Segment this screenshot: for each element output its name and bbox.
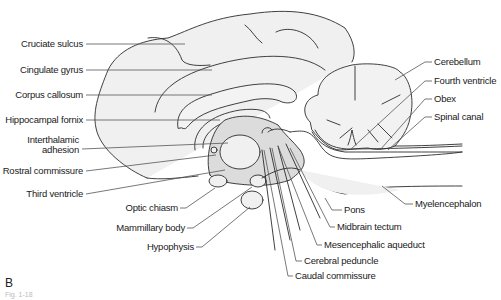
label-interthalamic-adhesion-line2: adhesion [42, 144, 79, 155]
label-midbrain-tectum: Midbrain tectum [337, 221, 402, 232]
label-myelencephalon: Myelencephalon [415, 198, 481, 209]
optic-chiasm-shape [209, 175, 227, 187]
label-cingulate-gyrus: Cingulate gyrus [20, 64, 83, 75]
label-mesencephalic-aqueduct: Mesencephalic aqueduct [324, 239, 425, 250]
cerebrum-ventral-edge [147, 176, 198, 179]
interthalamic-adhesion [220, 135, 260, 169]
label-corpus-callosum: Corpus callosum [15, 89, 83, 100]
label-spinal-canal: Spinal canal [434, 111, 483, 122]
label-cerebral-peduncle: Cerebral peduncle [304, 255, 378, 266]
label-third-ventricle: Third ventricle [26, 188, 83, 199]
label-fourth-ventricle: Fourth ventricle [434, 75, 496, 86]
panel-letter: B [5, 276, 13, 290]
figure-caption-partial: Fig. 1-18 [5, 291, 33, 298]
label-mammillary-body: Mammillary body [116, 222, 185, 233]
label-obex: Obex [434, 93, 456, 104]
hypophysis-shape [241, 191, 263, 209]
label-optic-chiasm: Optic chiasm [125, 202, 178, 213]
label-cerebellum: Cerebellum [434, 56, 481, 67]
label-pons: Pons [344, 204, 365, 215]
label-caudal-commissure: Caudal commissure [295, 270, 376, 281]
label-hippocampal-fornix: Hippocampal fornix [5, 114, 83, 125]
label-cruciate-sulcus: Cruciate sulcus [21, 38, 83, 49]
label-rostral-commissure: Rostral commissure [3, 165, 83, 176]
label-hypophysis: Hypophysis [147, 241, 194, 252]
